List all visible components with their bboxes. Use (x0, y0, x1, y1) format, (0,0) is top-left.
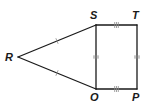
vertex-label-t: T (132, 9, 140, 21)
segments-group (18, 25, 137, 89)
vertex-label-s: S (90, 9, 98, 21)
tick-marks-group (56, 22, 140, 92)
geometry-diagram: S T R O P (0, 0, 147, 102)
vertex-label-r: R (5, 51, 13, 63)
vertex-label-o: O (90, 91, 99, 102)
vertex-labels-group: S T R O P (5, 9, 140, 102)
vertex-label-p: P (132, 91, 140, 102)
